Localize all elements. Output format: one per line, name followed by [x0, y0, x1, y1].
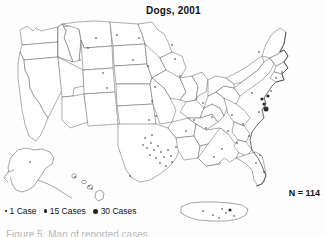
case-dot — [263, 171, 265, 173]
case-dot — [218, 217, 220, 219]
case-dot — [213, 156, 215, 158]
case-dot — [275, 77, 277, 79]
case-dot — [165, 165, 167, 167]
case-dot — [91, 188, 93, 190]
case-dot — [150, 142, 152, 144]
case-dot — [160, 151, 162, 153]
case-dot — [159, 162, 161, 164]
hawaii-inset — [72, 174, 104, 201]
case-dot — [29, 161, 31, 163]
rabies-case-map-figure: Dogs, 2001 — [0, 0, 326, 237]
case-dot — [116, 34, 118, 36]
case-dot — [225, 212, 227, 214]
case-dot — [87, 47, 89, 49]
case-dot — [144, 137, 146, 139]
legend-label-1-case: 1 Case — [10, 206, 37, 216]
case-dot — [155, 157, 157, 159]
case-dot — [153, 149, 155, 151]
case-dot — [258, 51, 260, 53]
case-dot — [175, 146, 177, 148]
case-dot — [157, 145, 159, 147]
case-dot — [167, 149, 169, 151]
united-states-dot-map — [0, 0, 326, 237]
case-dot — [233, 215, 235, 217]
case-dot — [179, 75, 181, 77]
case-dot — [251, 92, 253, 94]
case-dot — [231, 114, 233, 116]
case-dot — [148, 119, 150, 121]
case-dot — [202, 210, 204, 212]
alaska-inset — [4, 148, 72, 198]
case-dot — [211, 116, 213, 118]
case-dot — [129, 175, 131, 177]
legend-dot-small-icon — [5, 210, 7, 212]
case-dot — [221, 148, 223, 150]
case-dot — [170, 155, 172, 157]
case-dot — [95, 37, 97, 39]
case-dot — [227, 130, 229, 132]
figure-caption-partial: Figure 5. Map of reported cases — [6, 230, 306, 237]
case-dot — [259, 154, 261, 156]
total-count-annotation: N = 114 — [289, 188, 320, 198]
case-dot — [88, 185, 90, 187]
case-dot — [149, 154, 151, 156]
case-dot — [258, 111, 260, 113]
case-dot — [236, 142, 238, 144]
case-dot — [255, 162, 257, 164]
case-dot — [102, 72, 104, 74]
legend-item-30-cases: 30 Cases — [93, 206, 137, 216]
state-boundaries — [18, 21, 288, 186]
case-dot — [146, 147, 148, 149]
legend-dot-large-icon — [93, 209, 98, 214]
case-dot — [185, 130, 187, 132]
case-dot — [205, 127, 207, 129]
case-dot — [270, 90, 272, 92]
case-dot — [266, 94, 269, 97]
case-dot — [163, 156, 165, 158]
case-dot — [174, 58, 176, 60]
legend-label-30-cases: 30 Cases — [101, 206, 137, 216]
legend-dot-medium-icon — [44, 209, 47, 212]
case-dot — [281, 71, 283, 73]
case-dot — [132, 59, 134, 61]
case-dot — [138, 37, 140, 39]
legend: 1 Case 15 Cases 30 Cases — [5, 206, 144, 216]
case-dot — [151, 134, 153, 136]
case-dot — [171, 44, 173, 46]
case-dot — [74, 176, 76, 178]
case-dot — [154, 86, 156, 88]
case-dot — [193, 119, 195, 121]
legend-item-15-cases: 15 Cases — [44, 206, 86, 216]
case-dot — [248, 135, 250, 137]
case-dot — [202, 102, 204, 104]
case-dot — [242, 123, 244, 125]
case-dot — [142, 144, 144, 146]
case-dot — [147, 65, 149, 67]
legend-item-1-case: 1 Case — [5, 206, 37, 216]
case-dot — [262, 102, 265, 105]
legend-label-15-cases: 15 Cases — [50, 206, 86, 216]
case-dot — [151, 100, 153, 102]
case-dot — [221, 208, 223, 210]
case-dot — [228, 208, 231, 211]
case-dot — [212, 214, 214, 216]
puerto-rico-inset — [181, 202, 248, 221]
case-dot — [171, 161, 173, 163]
case-dot — [155, 115, 157, 117]
case-dot — [260, 97, 263, 100]
case-dot — [106, 87, 108, 89]
case-dot — [264, 107, 269, 112]
